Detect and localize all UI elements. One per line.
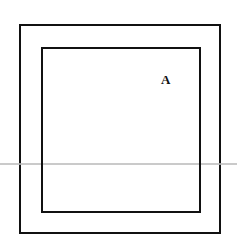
- diagram-canvas: A: [0, 0, 237, 240]
- inner-square: [41, 47, 201, 213]
- region-label-a: A: [161, 72, 170, 88]
